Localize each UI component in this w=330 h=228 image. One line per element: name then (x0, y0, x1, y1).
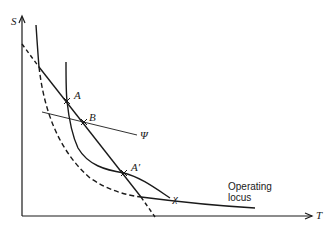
operating-locus-label-line2: locus (228, 192, 251, 203)
operating-locus-label-line1: Operating (228, 181, 272, 192)
psi-label: Ψ (140, 129, 149, 141)
point-b-label: B (89, 111, 96, 123)
point-a-prime-label: A′ (130, 161, 141, 173)
y-axis-label: S (11, 15, 17, 27)
point-a-label: A (73, 89, 81, 101)
diagram: S T A B A′ Ψ χ Operating locus (0, 0, 330, 228)
straight-line (22, 44, 155, 217)
chi-label: χ (172, 192, 179, 204)
x-axis-label: T (316, 209, 323, 221)
